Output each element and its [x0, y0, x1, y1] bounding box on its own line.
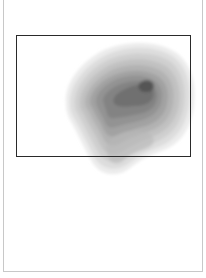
density-contour-plot	[0, 0, 206, 278]
contour-levels	[66, 43, 195, 174]
